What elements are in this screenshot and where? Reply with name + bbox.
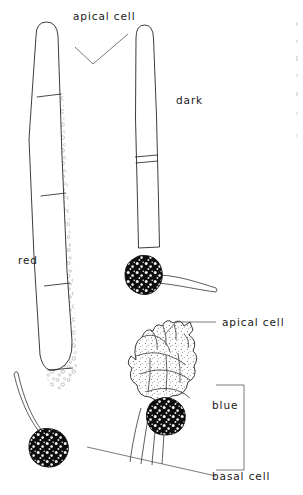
red-basal-cell: [29, 428, 69, 467]
label-treatment-dark: dark: [176, 94, 203, 106]
label-apical-cell-top: apical cell: [73, 10, 135, 22]
figure-root: apical cell dark red apical cell blue ba…: [0, 0, 303, 495]
label-treatment-blue: blue: [212, 399, 238, 411]
label-basal-cell: basal cell: [212, 470, 270, 482]
figure-canvas: apical cell dark red apical cell blue ba…: [0, 0, 303, 495]
dark-basal-cell: [125, 255, 162, 294]
label-treatment-red: red: [18, 254, 38, 266]
label-apical-cell-right: apical cell: [222, 316, 284, 328]
blue-basal-cell: [146, 398, 185, 436]
